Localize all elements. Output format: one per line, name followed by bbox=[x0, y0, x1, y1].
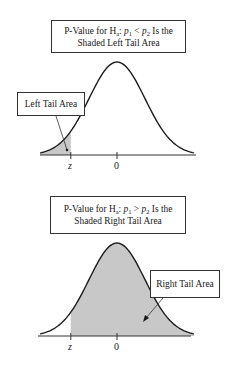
tick-label-z: z bbox=[68, 341, 72, 352]
title-text-post: Is the bbox=[149, 204, 172, 214]
tick-label-z: z bbox=[68, 160, 72, 171]
callout-left-tail-area: Left Tail Area bbox=[17, 92, 85, 116]
title-text: P-Value for H bbox=[64, 26, 116, 36]
callout-text: Right Tail Area bbox=[156, 279, 214, 289]
title-box-left-tail: P-Value for Ha: p1 < p2 Is the Shaded Le… bbox=[51, 20, 186, 53]
title-text: P-Value for H bbox=[64, 204, 116, 214]
title-operator: > bbox=[132, 204, 142, 214]
title-operator: < bbox=[132, 26, 142, 36]
callout-right-tail-area: Right Tail Area bbox=[150, 270, 220, 298]
title-line2: Shaded Right Tail Area bbox=[74, 216, 161, 226]
callout-pointer-tip bbox=[66, 149, 69, 152]
tick-label-zero: 0 bbox=[114, 341, 119, 352]
tick-label-zero: 0 bbox=[114, 160, 119, 171]
callout-text: Left Tail Area bbox=[25, 99, 77, 109]
title-text-post: Is the bbox=[150, 26, 173, 36]
title-line2: Shaded Left Tail Area bbox=[77, 38, 159, 48]
title-box-right-tail: P-Value for Ha: p1 > p2 Is the Shaded Ri… bbox=[50, 196, 186, 234]
diagram-canvas bbox=[0, 0, 227, 382]
